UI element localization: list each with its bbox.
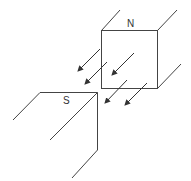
arrow-icon: [125, 83, 147, 105]
arrow-icon: [105, 80, 127, 103]
magnetic-field-diagram: [0, 0, 191, 181]
north-label: N: [127, 19, 134, 29]
arrow-icon: [78, 49, 100, 71]
field-arrows: [78, 49, 147, 105]
south-label: S: [63, 96, 70, 106]
south-pole-magnet: [13, 93, 98, 179]
arrow-icon: [112, 53, 134, 75]
arrow-icon: [85, 62, 107, 84]
north-pole-magnet: [102, 10, 182, 89]
